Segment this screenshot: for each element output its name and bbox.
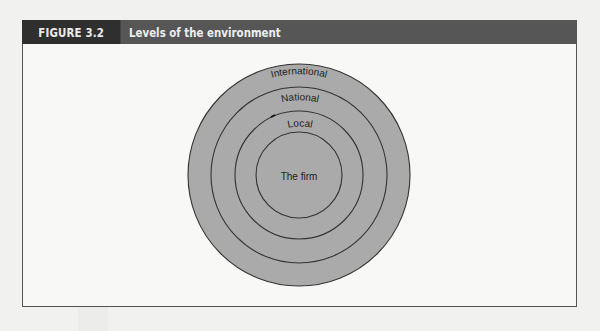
levels-diagram: International National Local The firm <box>0 0 600 331</box>
label-local: Local <box>287 117 314 129</box>
label-the-firm: The firm <box>281 171 318 182</box>
